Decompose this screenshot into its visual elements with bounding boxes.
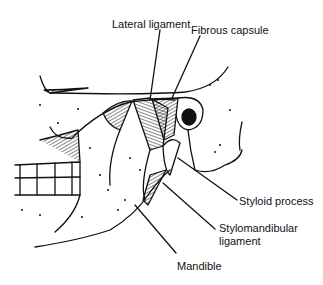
label-mandible: Mandible — [177, 260, 222, 272]
label-styloid-process: Styloid process — [239, 195, 314, 207]
label-lateral-ligament: Lateral ligament — [112, 18, 190, 30]
label-stylomandibular-1: Stylomandibular — [219, 222, 298, 234]
label-fibrous-capsule: Fibrous capsule — [191, 24, 269, 36]
label-stylomandibular-2: ligament — [219, 235, 261, 247]
anatomy-drawing — [0, 0, 323, 285]
tmj-diagram: Lateral ligament Fibrous capsule Styloid… — [0, 0, 323, 285]
